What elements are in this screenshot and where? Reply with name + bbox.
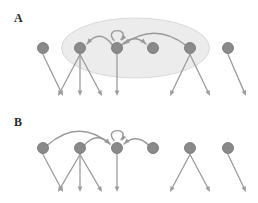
node[interactable] (185, 143, 196, 154)
leaf-edge (80, 155, 100, 189)
leaf-edge (228, 155, 244, 188)
leaf-edge (43, 55, 61, 92)
leaf-edge (228, 55, 244, 92)
node[interactable] (75, 43, 86, 54)
node[interactable] (112, 143, 123, 154)
node[interactable] (148, 43, 159, 54)
node[interactable] (38, 43, 49, 54)
node[interactable] (148, 143, 159, 154)
leaf-edge (172, 155, 190, 189)
self-loop-edge (111, 131, 123, 141)
leaf-edge (190, 155, 208, 189)
leaf-edge (43, 155, 61, 189)
node[interactable] (223, 43, 234, 54)
panel-a (38, 18, 247, 96)
self-loop-arrowhead (122, 135, 127, 141)
panel-b (38, 131, 247, 192)
arc-arrowhead (124, 139, 130, 144)
arc-arrowhead (104, 138, 110, 144)
node[interactable] (185, 43, 196, 54)
figure-canvas: A B (0, 0, 258, 203)
leaf-arrowhead (78, 187, 83, 193)
network-diagram-svg (0, 0, 258, 203)
leaf-edge (60, 155, 80, 189)
leaf-arrowhead (115, 187, 120, 193)
node[interactable] (38, 143, 49, 154)
leaf-arrowhead (78, 91, 83, 97)
leaf-arrowhead (115, 91, 120, 97)
node[interactable] (112, 43, 123, 54)
node[interactable] (223, 143, 234, 154)
node[interactable] (75, 143, 86, 154)
